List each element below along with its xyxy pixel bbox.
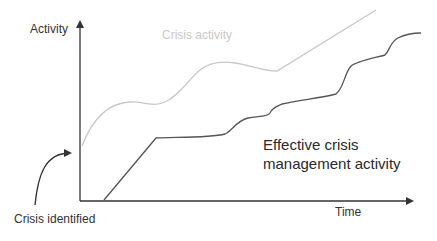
x-axis-label: Time bbox=[335, 206, 361, 220]
management-activity-label: Effective crisis management activity bbox=[263, 135, 433, 173]
crisis-identified-label: Crisis identified bbox=[14, 213, 95, 227]
management-activity-line bbox=[104, 33, 421, 200]
crisis-activity-label: Crisis activity bbox=[162, 29, 232, 43]
y-axis-label: Activity bbox=[30, 23, 68, 37]
crisis-activity-diagram: Activity Time Crisis activity Effective … bbox=[0, 0, 437, 241]
crisis-identified-arrow bbox=[35, 153, 70, 205]
